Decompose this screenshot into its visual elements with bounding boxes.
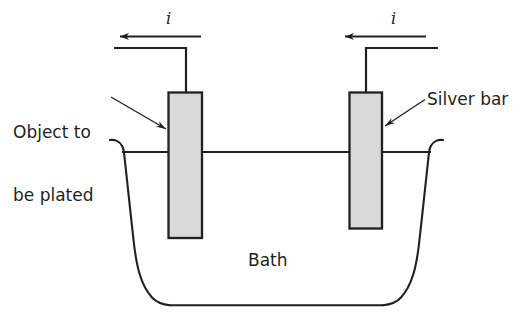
bath-left-wall — [124, 152, 170, 305]
label-bath: Bath — [248, 250, 288, 271]
label-current-right: i — [391, 8, 396, 29]
lead-wire-left — [114, 48, 186, 93]
leader-line-silver-bar — [385, 100, 425, 127]
bath-left-rim-curl — [110, 140, 124, 153]
label-object-line-2: be plated — [13, 185, 94, 206]
label-silver-bar: Silver bar — [427, 89, 508, 110]
label-current-left: i — [166, 8, 171, 29]
object-to-be-plated-electrode — [169, 93, 203, 239]
electroplating-diagram: Object to be plated Silver bar Bath i i — [0, 0, 520, 320]
bath-right-rim-curl — [429, 140, 443, 153]
label-object-line-1: Object to — [13, 122, 94, 143]
leader-line-object-to-be-plated — [111, 97, 166, 129]
lead-wire-right — [366, 48, 438, 93]
silver-bar-electrode — [350, 93, 383, 229]
bath-right-wall — [383, 152, 429, 305]
label-object-to-be-plated: Object to be plated — [13, 80, 94, 248]
bath-vessel — [110, 140, 443, 305]
